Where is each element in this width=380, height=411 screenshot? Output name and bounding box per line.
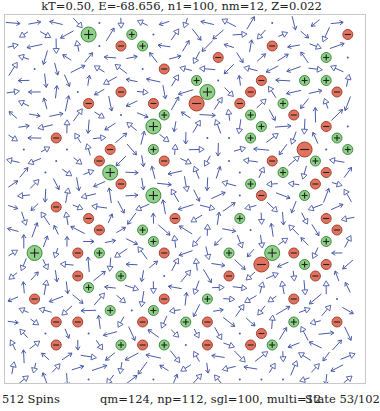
spin-arrow-icon [8,205,18,209]
spin-arrow-icon [292,16,297,30]
spin-arrow-icon [342,307,353,313]
spin-open-arrow-icon [205,246,211,259]
spin-arrow-icon [184,132,188,144]
negative-charge-icon [84,214,94,224]
spin-open-arrow-icon [180,158,191,164]
spin-arrow-icon [309,89,322,93]
spin-open-arrow-icon [291,271,297,281]
spin-open-arrow-icon [107,258,113,272]
spin-lattice-panel[interactable] [4,14,366,384]
negative-charge-icon [94,225,104,235]
spin-open-arrow-icon [222,366,236,372]
positive-charge-icon [300,191,310,201]
negative-charge-icon [116,87,126,97]
spin-dot-icon [260,379,262,381]
spin-arrow-icon [54,270,58,282]
spin-open-arrow-icon [170,350,179,362]
spin-dot-icon [152,34,154,36]
spin-dot-icon [282,379,284,381]
spin-open-arrow-icon [268,86,275,97]
spin-arrow-icon [63,55,72,61]
negative-charge-icon [148,99,158,109]
spin-dot-icon [142,68,144,70]
spin-open-arrow-icon [64,212,70,225]
spin-arrow-icon [301,52,308,63]
spin-arrow-icon [276,306,290,314]
spin-open-arrow-icon [138,247,147,260]
spin-open-arrow-icon [93,135,106,141]
spin-arrow-icon [344,96,350,110]
spin-arrow-icon [43,189,47,202]
spin-open-arrow-icon [308,204,322,210]
positive-charge-icon [148,306,158,316]
negative-charge-icon [254,257,269,272]
spin-arrow-icon [246,318,255,326]
spin-dot-icon [228,160,230,162]
spin-arrow-icon [87,75,91,85]
positive-charge-icon [246,110,256,120]
positive-charge-icon [321,76,331,86]
negative-charge-icon [332,87,342,97]
negative-charge-icon [170,214,180,224]
positive-charge-icon [27,246,42,261]
positive-charge-icon [105,306,115,316]
spin-open-arrow-icon [267,181,278,187]
negative-charge-icon [94,156,104,166]
spin-open-arrow-icon [245,204,257,210]
spin-open-arrow-icon [259,167,265,178]
spin-open-arrow-icon [8,43,19,49]
spin-arrow-icon [31,203,38,210]
spin-arrow-icon [72,365,84,370]
negative-charge-icon [51,317,61,327]
spin-arrow-icon [126,262,137,266]
spin-arrow-icon [179,251,192,257]
spin-dot-icon [271,22,273,24]
spin-open-arrow-icon [10,362,16,374]
spin-open-arrow-icon [28,158,41,164]
spin-dot-icon [66,149,68,151]
spin-arrow-icon [287,67,301,73]
negative-charge-icon [267,41,277,51]
spin-open-arrow-icon [38,124,53,130]
spin-arrow-icon [86,257,90,272]
spin-open-arrow-icon [74,158,82,165]
spin-open-arrow-icon [194,329,199,338]
spin-arrow-icon [301,31,309,38]
spin-arrow-icon [286,90,301,95]
spin-open-arrow-icon [266,133,278,142]
spin-open-arrow-icon [19,54,29,60]
spin-arrow-icon [171,97,179,110]
spin-dot-icon [88,333,90,335]
positive-charge-icon [267,340,277,350]
spin-dot-icon [206,137,208,139]
spin-arrow-icon [257,54,265,61]
spin-open-arrow-icon [215,327,222,339]
spin-open-arrow-icon [180,66,192,72]
spin-open-arrow-icon [245,296,257,303]
spin-arrow-icon [27,44,42,49]
spin-dot-icon [239,172,241,174]
spin-arrow-icon [108,214,113,223]
spin-arrow-icon [151,213,155,223]
spin-arrow-icon [86,120,90,134]
spin-arrow-icon [29,113,40,117]
spin-open-arrow-icon [136,204,149,211]
spin-open-arrow-icon [18,193,30,199]
spin-arrow-icon [106,353,115,361]
spin-open-arrow-icon [150,281,156,293]
spin-open-arrow-icon [22,212,28,226]
spin-lattice-canvas[interactable] [5,15,366,384]
spin-dot-icon [55,160,57,162]
charge-counts-label: qm=124, np=112, sgl=100, multi=12 [100,392,321,406]
spin-arrow-icon [301,238,308,246]
spin-arrow-icon [301,98,309,108]
negative-charge-icon [256,76,266,86]
negative-charge-icon [51,202,61,212]
spin-open-arrow-icon [280,351,286,362]
negative-charge-icon [256,329,266,339]
spin-open-arrow-icon [104,77,117,85]
negative-charge-icon [116,179,126,189]
spin-arrow-icon [324,188,330,202]
negative-charge-icon [73,317,83,327]
negative-charge-icon [332,225,342,235]
